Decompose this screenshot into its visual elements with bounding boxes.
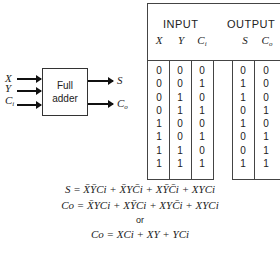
input-y-arrow-icon xyxy=(17,90,41,92)
or-label: or xyxy=(0,215,280,225)
col-y-values: 0 0 1 1 0 0 1 1 xyxy=(170,64,190,170)
input-x-arrow-icon xyxy=(17,78,41,80)
carry-equation-full: Co = X̄YCi + XȲCi + XYC̄i + XYCi xyxy=(0,199,280,211)
input-y-label: Y xyxy=(5,82,11,94)
col-co-values: 0 0 0 1 0 1 1 1 xyxy=(256,64,276,170)
col-ci-values: 0 1 0 1 0 1 0 1 xyxy=(192,64,212,170)
col-header-y: Y xyxy=(171,34,191,46)
output-bottom-border xyxy=(232,179,280,180)
input-ci-label: Ci xyxy=(5,94,14,108)
full-adder-block: Full adder xyxy=(42,68,88,116)
header-input: INPUT xyxy=(163,18,199,30)
col-x-values: 0 0 0 0 1 1 1 1 xyxy=(149,64,169,170)
col-header-co: Co xyxy=(257,34,277,48)
input-ci-arrow-icon xyxy=(17,104,41,106)
col-header-ci: Ci xyxy=(192,34,212,48)
col-header-s: S xyxy=(235,34,255,46)
output-s-arrow-icon xyxy=(88,80,113,82)
header-output: OUTPUT xyxy=(227,18,275,30)
block-label-full: Full xyxy=(43,79,87,92)
sum-equation: S = X̄ȲCi + X̄YC̄i + XȲC̄i + XYCi xyxy=(0,183,280,195)
col-header-x: X xyxy=(149,34,169,46)
output-s-label: S xyxy=(117,74,123,86)
output-co-arrow-icon xyxy=(88,103,113,105)
col-divider xyxy=(213,60,214,180)
output-co-label: Co xyxy=(117,97,128,111)
col-divider xyxy=(254,60,255,180)
col-s-values: 0 1 1 0 1 0 0 1 xyxy=(233,64,253,170)
carry-equation-simplified: Co = XCi + XY + YCi xyxy=(0,228,280,240)
block-label-adder: adder xyxy=(43,92,87,105)
input-bottom-border xyxy=(147,179,214,180)
